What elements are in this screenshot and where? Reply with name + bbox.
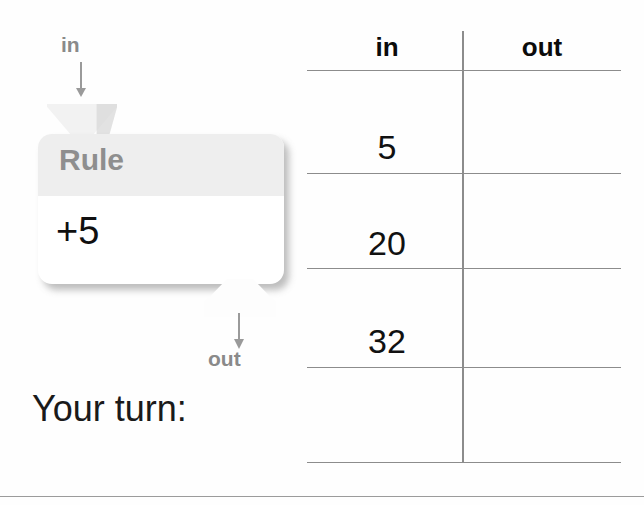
table-rule-row-3 [307,367,621,368]
table-cell-in-2[interactable]: 20 [312,226,462,260]
machine-input-label: in [61,34,79,55]
machine-output-label: out [208,348,241,369]
worksheet-page: in Rule +5 out Your turn: in out 5 20 [0,0,644,505]
page-bottom-divider [0,496,644,497]
table-rule-row-1 [307,173,621,174]
your-turn-prompt: Your turn: [32,391,187,427]
table-cell-in-1[interactable]: 5 [312,130,462,164]
table-rule-row-4 [307,462,621,463]
function-machine-diagram: in Rule +5 out Your turn: [0,0,300,470]
table-column-divider [462,31,464,463]
table-cell-in-3[interactable]: 32 [312,324,462,358]
rule-expression: +5 [56,212,99,250]
funnel-tab-icon-output [204,279,276,317]
funnel-tab-face-bottom [204,279,276,317]
in-out-table: in out 5 20 32 [307,14,621,469]
rule-card-title: Rule [59,145,124,175]
rule-card: Rule +5 [38,134,284,284]
arrow-down-icon-output [238,313,240,345]
arrow-down-icon-input [80,62,82,92]
table-rule-header [307,70,621,71]
table-rule-row-2 [307,268,621,269]
table-header-out: out [467,34,617,60]
table-header-in: in [312,34,462,60]
funnel-tab-icon-input [47,104,117,138]
